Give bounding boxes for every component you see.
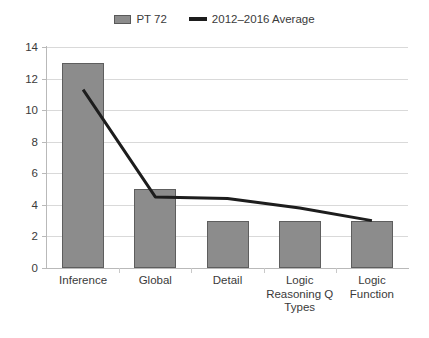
x-category-label-line: Inference (47, 274, 119, 288)
x-category-label-line: Global (119, 274, 191, 288)
legend-entry-pt72: PT 72 (114, 13, 166, 25)
y-tick-label-12: 12 (25, 73, 38, 84)
y-tick-label-8: 8 (32, 136, 38, 147)
bar-line-chart: PT 72 2012–2016 Average 02468101214 Infe… (0, 0, 429, 338)
chart-legend: PT 72 2012–2016 Average (0, 9, 429, 29)
x-category-label-line: Detail (191, 274, 263, 288)
x-category-label-2: Detail (191, 274, 263, 288)
x-category-label-line: Types (264, 301, 336, 315)
plot-area: 02468101214 (47, 47, 408, 268)
y-tick-label-2: 2 (32, 231, 38, 242)
x-category-label-4: LogicFunction (336, 274, 408, 301)
legend-line-swatch-icon (189, 17, 207, 21)
x-category-label-1: Global (119, 274, 191, 288)
y-tick-label-10: 10 (25, 105, 38, 116)
x-category-label-3: LogicReasoning QTypes (264, 274, 336, 315)
x-category-label-line: Logic (336, 274, 408, 288)
x-tick-2 (191, 268, 192, 273)
y-tick-label-14: 14 (25, 42, 38, 53)
legend-label-pt72: PT 72 (136, 13, 166, 25)
x-category-label-line: Reasoning Q (264, 288, 336, 302)
x-tick-1 (119, 268, 120, 273)
x-category-label-0: Inference (47, 274, 119, 288)
line-series-average (47, 47, 408, 268)
average-line-path (83, 90, 372, 221)
legend-entry-average: 2012–2016 Average (189, 13, 315, 25)
legend-label-average: 2012–2016 Average (212, 13, 315, 25)
y-tick-label-6: 6 (32, 168, 38, 179)
x-category-label-line: Function (336, 288, 408, 302)
y-tick-label-0: 0 (32, 263, 38, 274)
x-category-label-line: Logic (264, 274, 336, 288)
x-tick-3 (264, 268, 265, 273)
legend-bar-swatch-icon (114, 15, 131, 24)
x-tick-4 (336, 268, 337, 273)
y-tick-0 (42, 268, 47, 269)
x-axis-line (46, 268, 409, 269)
y-tick-label-4: 4 (32, 199, 38, 210)
